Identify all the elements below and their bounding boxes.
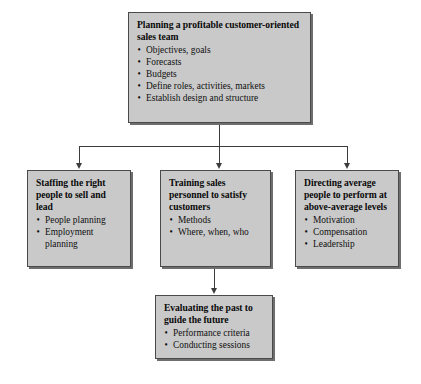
list-item-label: Performance criteria xyxy=(173,328,250,338)
bullet-icon: • xyxy=(305,214,308,226)
bullet-icon: • xyxy=(170,214,173,226)
connector-training-to-evaluating xyxy=(214,267,215,289)
bullet-icon: • xyxy=(170,226,173,238)
list-item: •People planning xyxy=(36,214,123,226)
bullet-icon: • xyxy=(138,68,141,80)
list-item-label: Objectives, goals xyxy=(146,45,211,55)
list-item-label: Budgets xyxy=(146,69,177,79)
bullet-icon: • xyxy=(37,226,40,238)
connector-branch-to-training xyxy=(219,146,220,164)
list-item: •Conducting sessions xyxy=(164,339,265,351)
list-item: •Leadership xyxy=(304,238,391,250)
bullet-icon: • xyxy=(305,226,308,238)
list-item: •Budgets xyxy=(137,68,303,80)
node-training-title: Training sales personnel to satisfy cust… xyxy=(169,177,263,214)
list-item: •Define roles, activities, markets xyxy=(137,80,303,92)
list-item-label: Establish design and structure xyxy=(146,93,258,103)
bullet-icon: • xyxy=(138,92,141,104)
node-planning: Planning a profitable customer-oriented … xyxy=(128,12,311,123)
list-item: •Establish design and structure xyxy=(137,92,303,104)
list-item-label: Compensation xyxy=(313,227,367,237)
bullet-icon: • xyxy=(138,44,141,56)
node-directing-list: •Motivation •Compensation •Leadership xyxy=(304,214,391,250)
list-item: •Forecasts xyxy=(137,56,303,68)
list-item-label: People planning xyxy=(45,215,106,225)
connector-branch-to-directing xyxy=(347,146,348,164)
node-planning-title: Planning a profitable customer-oriented … xyxy=(137,19,303,43)
arrowhead-directing-icon xyxy=(344,163,350,169)
node-staffing-title: Staffing the right people to sell and le… xyxy=(36,177,123,214)
node-training-list: •Methods •Where, when, who xyxy=(169,214,263,238)
node-staffing-list: •People planning •Employment planning xyxy=(36,214,123,250)
list-item: •Employment planning xyxy=(36,226,123,250)
node-evaluating-title: Evaluating the past to guide the future xyxy=(164,302,265,326)
list-item-label: Forecasts xyxy=(146,57,181,67)
list-item: •Where, when, who xyxy=(169,226,263,238)
bullet-icon: • xyxy=(37,214,40,226)
bullet-icon: • xyxy=(165,339,168,351)
list-item-label: Methods xyxy=(178,215,211,225)
list-item: •Objectives, goals xyxy=(137,44,303,56)
node-evaluating-list: •Performance criteria •Conducting sessio… xyxy=(164,327,265,351)
bullet-icon: • xyxy=(138,56,141,68)
node-evaluating: Evaluating the past to guide the future … xyxy=(155,295,273,359)
node-planning-list: •Objectives, goals •Forecasts •Budgets •… xyxy=(137,44,303,104)
node-directing-title: Directing average people to perform at a… xyxy=(304,177,391,214)
list-item: •Motivation xyxy=(304,214,391,226)
connector-branch-to-staffing xyxy=(79,146,80,164)
list-item-label: Motivation xyxy=(313,215,355,225)
bullet-icon: • xyxy=(138,80,141,92)
list-item: •Performance criteria xyxy=(164,327,265,339)
bullet-icon: • xyxy=(165,327,168,339)
flowchart-canvas: Planning a profitable customer-oriented … xyxy=(0,0,421,384)
list-item: •Methods xyxy=(169,214,263,226)
list-item: •Compensation xyxy=(304,226,391,238)
node-staffing: Staffing the right people to sell and le… xyxy=(27,170,131,267)
arrowhead-training-icon xyxy=(216,163,222,169)
node-training: Training sales personnel to satisfy cust… xyxy=(160,170,271,267)
connector-planning-trunk xyxy=(219,123,220,147)
arrowhead-staffing-icon xyxy=(76,163,82,169)
connector-branch-bar xyxy=(79,146,348,147)
bullet-icon: • xyxy=(305,238,308,250)
node-directing: Directing average people to perform at a… xyxy=(295,170,399,267)
list-item-label: Employment planning xyxy=(45,227,93,249)
list-item-label: Leadership xyxy=(313,239,355,249)
arrowhead-evaluating-icon xyxy=(211,288,217,294)
list-item-label: Define roles, activities, markets xyxy=(146,81,265,91)
list-item-label: Conducting sessions xyxy=(173,340,250,350)
list-item-label: Where, when, who xyxy=(178,227,249,237)
